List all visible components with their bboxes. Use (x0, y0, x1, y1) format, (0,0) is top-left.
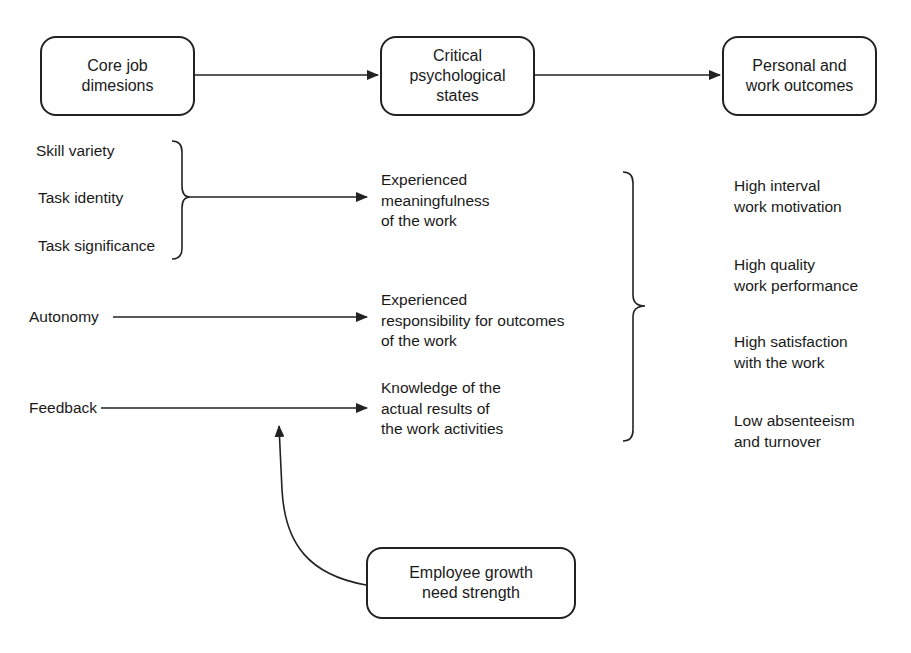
outcome-work-motivation: High interval work motivation (734, 176, 842, 217)
state-knowledge-of-results: Knowledge of the actual results of the w… (381, 378, 503, 440)
dimension-autonomy: Autonomy (29, 307, 99, 328)
dimension-task-significance: Task significance (38, 236, 155, 257)
dimension-skill-variety: Skill variety (36, 141, 114, 162)
header-core-job-dimensions: Core job dimesions (40, 36, 195, 116)
outcome-absenteeism-turnover: Low absenteeism and turnover (734, 411, 855, 452)
outcome-work-performance: High quality work performance (734, 255, 858, 296)
brace-states (623, 172, 645, 441)
header-personal-work-outcomes: Personal and work outcomes (722, 36, 877, 116)
moderator-growth-need-strength: Employee growth need strength (366, 547, 576, 619)
brace-dimensions (172, 141, 190, 259)
state-responsibility: Experienced responsibility for outcomes … (381, 290, 565, 352)
header-critical-psychological-states: Critical psychological states (380, 36, 535, 116)
dimension-task-identity: Task identity (38, 188, 123, 209)
arrow-moderator (279, 426, 366, 585)
dimension-feedback: Feedback (29, 398, 97, 419)
outcome-satisfaction: High satisfaction with the work (734, 332, 848, 373)
state-meaningfulness: Experienced meaningfulness of the work (381, 170, 490, 232)
